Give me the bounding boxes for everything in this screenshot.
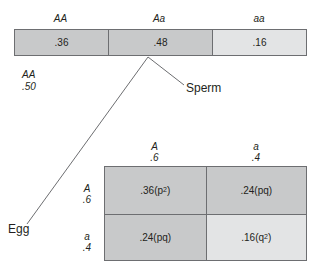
hardy-weinberg-diagram: AA Aa aa .36 .48 .16 AA .50 Sperm Egg A … bbox=[0, 0, 322, 279]
sperm-leader-line bbox=[148, 57, 184, 85]
punnett-cell-AA: .36 (p2) bbox=[105, 167, 206, 214]
genotype-header-aa: aa bbox=[211, 13, 307, 24]
sperm-label: Sperm bbox=[186, 83, 221, 94]
punnett-col-header-a: a .4 bbox=[205, 141, 307, 163]
punnett-cell-Aa-top-paren-close: ) bbox=[269, 185, 272, 196]
punnett-cell-AA-paren-close: ) bbox=[167, 185, 170, 196]
genotype-cell-Aa: .48 bbox=[108, 30, 212, 55]
punnett-cell-aa: .16 (q2) bbox=[206, 214, 307, 261]
punnett-cell-Aa-top: .24 (pq) bbox=[206, 167, 307, 214]
punnett-row-header-a-allele: a bbox=[78, 231, 96, 242]
genotype-frequency-bar: .36 .48 .16 bbox=[14, 29, 307, 56]
punnett-col-header-A-freq: .6 bbox=[104, 152, 205, 163]
egg-label: Egg bbox=[8, 224, 29, 235]
genotype-header-Aa: Aa bbox=[107, 13, 211, 24]
genotype-header-AA: AA bbox=[14, 13, 107, 24]
genotype-cell-AA: .36 bbox=[15, 30, 108, 55]
punnett-col-header-A-allele: A bbox=[104, 141, 205, 152]
punnett-cell-Aa-top-value: .24 bbox=[240, 185, 254, 196]
punnett-square: .36 (p2) .24 (pq) .24 (pq) .16 (q2) bbox=[104, 166, 307, 261]
punnett-cell-aa-paren-close: ) bbox=[268, 232, 271, 243]
punnett-row-header-A-allele: A bbox=[78, 183, 96, 194]
left-note-genotype: AA bbox=[22, 69, 35, 80]
punnett-row-header-A: A .6 bbox=[78, 183, 96, 205]
punnett-row-header-a: a .4 bbox=[78, 231, 96, 253]
left-note-frequency: .50 bbox=[22, 81, 36, 92]
punnett-row-header-A-freq: .6 bbox=[78, 194, 96, 205]
punnett-col-header-a-freq: .4 bbox=[205, 152, 307, 163]
punnett-cell-aa-value: .16 bbox=[241, 232, 255, 243]
punnett-cell-Aa-bottom-term: pq bbox=[157, 232, 168, 243]
punnett-row-header-a-freq: .4 bbox=[78, 242, 96, 253]
punnett-cell-Aa-bottom-value: .24 bbox=[139, 232, 153, 243]
punnett-cell-Aa-bottom-paren-close: ) bbox=[168, 232, 171, 243]
punnett-cell-Aa-top-term: pq bbox=[258, 185, 269, 196]
punnett-cell-AA-value: .36 bbox=[140, 185, 154, 196]
punnett-col-header-A: A .6 bbox=[104, 141, 205, 163]
punnett-col-header-a-allele: a bbox=[205, 141, 307, 152]
punnett-cell-Aa-bottom: .24 (pq) bbox=[105, 214, 206, 261]
genotype-cell-aa: .16 bbox=[212, 30, 306, 55]
